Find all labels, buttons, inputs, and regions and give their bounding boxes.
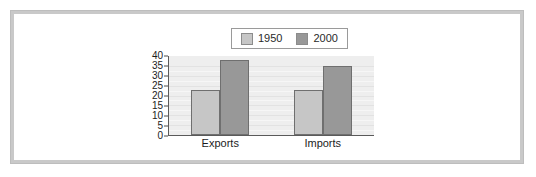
legend-entry-2000: 2000 [296, 33, 337, 45]
y-tick-label: 0 [157, 131, 163, 141]
bar-chart: 1950 2000 40 35 30 25 20 15 [14, 14, 520, 160]
bars-layer [169, 56, 374, 135]
y-axis: 40 35 30 25 20 15 10 5 0 [142, 56, 168, 136]
bar-imports-2000[interactable] [323, 66, 352, 135]
bar-group-exports [169, 56, 272, 135]
legend-label-1950: 1950 [258, 33, 282, 44]
x-label-exports: Exports [169, 138, 272, 149]
bar-exports-1950[interactable] [191, 90, 220, 135]
chart-legend: 1950 2000 [231, 28, 348, 49]
figure-frame: 1950 2000 40 35 30 25 20 15 [11, 11, 523, 163]
x-label-imports: Imports [272, 138, 375, 149]
plot-wrapper: 40 35 30 25 20 15 10 5 0 [142, 56, 374, 136]
legend-swatch-1950 [241, 33, 253, 45]
bar-imports-1950[interactable] [294, 90, 323, 135]
x-axis-line [168, 135, 374, 136]
legend-entry-1950: 1950 [241, 33, 282, 45]
bar-group-imports [272, 56, 375, 135]
legend-swatch-2000 [296, 33, 308, 45]
plot-area [169, 56, 374, 135]
bar-exports-2000[interactable] [220, 60, 249, 135]
x-axis-labels: Exports Imports [169, 138, 374, 149]
legend-label-2000: 2000 [313, 33, 337, 44]
